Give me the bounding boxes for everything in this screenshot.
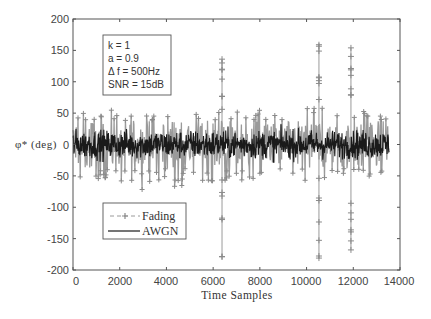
x-tick-label: 10000: [291, 275, 322, 287]
y-tick-label: 200: [51, 13, 69, 25]
y-tick-label: -200: [47, 264, 69, 276]
y-tick-label: -50: [53, 170, 69, 182]
x-tick-label: 6000: [201, 275, 225, 287]
x-axis-label: Time Samples: [201, 289, 273, 302]
legend: Fading AWGN: [103, 203, 186, 239]
parameter-annotation-box: k = 1 a = 0.9 Δ f = 500Hz SNR = 15dB: [103, 35, 171, 95]
annotation-line: a = 0.9: [108, 53, 139, 64]
chart-figure: 200 150 100 50 0 -50 -100 -150 -200 0 20…: [0, 0, 431, 319]
x-tick-label: 4000: [154, 275, 178, 287]
x-tick-label: 2000: [108, 275, 132, 287]
legend-label: AWGN: [142, 224, 179, 238]
legend-label: Fading: [142, 209, 175, 223]
y-axis-label: φ* (deg): [15, 138, 57, 151]
x-tick-labels: 0 2000 4000 6000 8000 10000 12000 14000: [73, 275, 414, 287]
annotation-line: Δ f = 500Hz: [108, 66, 160, 77]
annotation-line: k = 1: [108, 40, 130, 51]
figure-caption-cropped: [0, 309, 431, 319]
y-tick-label: -150: [47, 233, 69, 245]
y-tick-label: 150: [51, 44, 69, 56]
x-tick-label: 8000: [248, 275, 272, 287]
y-tick-label: 50: [57, 107, 69, 119]
x-tick-label: 0: [73, 275, 79, 287]
x-tick-label: 14000: [384, 275, 415, 287]
y-tick-label: 100: [51, 76, 69, 88]
annotation-line: SNR = 15dB: [108, 79, 164, 90]
x-tick-label: 12000: [338, 275, 369, 287]
y-tick-label: 0: [63, 139, 69, 151]
y-tick-label: -100: [47, 201, 69, 213]
